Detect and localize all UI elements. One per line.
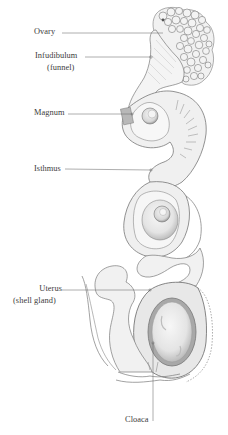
label-cloaca-text: Cloaca bbox=[125, 415, 149, 424]
label-infundibulum-sub: (funnel) bbox=[35, 63, 77, 73]
label-uterus-sub: (shell gland) bbox=[13, 296, 56, 306]
yolk-magnum bbox=[142, 108, 158, 124]
label-ovary: Ovary bbox=[34, 27, 55, 37]
label-isthmus-text: Isthmus bbox=[34, 164, 61, 173]
label-magnum: Magnum bbox=[34, 108, 65, 118]
label-ovary-text: Ovary bbox=[34, 27, 55, 36]
label-infundibulum: Infudibulum (funnel) bbox=[35, 51, 77, 73]
label-cloaca: Cloaca bbox=[125, 415, 149, 425]
label-isthmus: Isthmus bbox=[34, 164, 61, 174]
label-uterus-text: Uterus bbox=[12, 284, 62, 294]
egg-isthmus bbox=[142, 200, 178, 240]
leader-isthmus bbox=[65, 169, 151, 170]
label-uterus-sub-text: (shell gland) bbox=[13, 296, 56, 305]
label-uterus: Uterus bbox=[12, 284, 62, 294]
label-magnum-text: Magnum bbox=[34, 108, 65, 117]
egg-uterus bbox=[148, 298, 196, 366]
label-infundibulum-text: Infudibulum bbox=[35, 51, 77, 61]
